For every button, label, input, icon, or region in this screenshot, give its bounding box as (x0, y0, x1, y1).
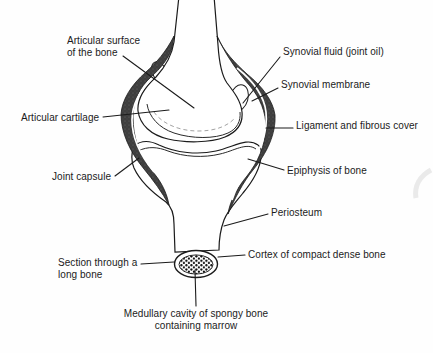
label-section-through-bone: Section through a long bone (58, 257, 137, 280)
bone-cross-section (175, 251, 218, 278)
scan-artifact (416, 170, 431, 198)
label-articular-cartilage: Articular cartilage (21, 112, 99, 124)
leader-periosteum (224, 214, 268, 226)
leader-cortex (218, 255, 245, 257)
label-epiphysis: Epiphysis of bone (287, 165, 367, 177)
marrow-dots (179, 255, 213, 274)
label-medullary-cavity: Medullary cavity of spongy bone containi… (110, 308, 282, 331)
label-joint-capsule: Joint capsule (52, 171, 111, 183)
label-cortex: Cortex of compact dense bone (248, 249, 386, 261)
figure-synovial-joint: Articular surface of the bone Synovial f… (0, 0, 433, 353)
label-periosteum: Periosteum (271, 207, 322, 219)
label-synovial-membrane: Synovial membrane (281, 79, 370, 91)
label-ligament-fibrous-cover: Ligament and fibrous cover (296, 120, 418, 132)
lower-bone-epiphysis (132, 142, 262, 252)
label-synovial-fluid: Synovial fluid (joint oil) (283, 46, 384, 58)
leader-section (141, 262, 174, 264)
label-articular-surface: Articular surface of the bone (67, 35, 140, 58)
